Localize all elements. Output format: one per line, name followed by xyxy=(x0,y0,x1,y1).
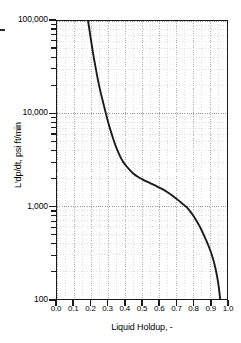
y-tick-major xyxy=(49,113,56,115)
y-tick-label: 10,000 xyxy=(23,108,48,117)
y-tick-major xyxy=(49,206,56,208)
plot-area xyxy=(56,20,228,300)
data-curve xyxy=(57,21,227,299)
chart-figure: L'dp/dt, psi ft/min 1001,00010,000100,00… xyxy=(0,0,241,343)
x-tick-label: 1.0 xyxy=(216,304,240,313)
y-axis-title: L'dp/dt, psi ft/min xyxy=(13,85,23,225)
x-axis-title: Liquid Holdup, - xyxy=(56,322,228,332)
y-tick-major xyxy=(49,19,56,21)
y-tick-label: 100,000 xyxy=(18,15,48,24)
edge-artifact-mark xyxy=(0,29,5,31)
y-tick-label: 1,000 xyxy=(27,202,48,211)
y-tick-label: 100 xyxy=(34,295,48,304)
